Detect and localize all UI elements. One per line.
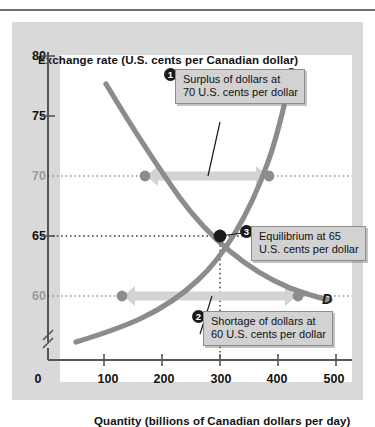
supply-curve	[76, 106, 284, 342]
callout-2-line1: Shortage of dollars at	[211, 315, 326, 328]
demand-curve	[106, 84, 330, 300]
surplus-supply-point	[264, 171, 275, 182]
leader-line-surplus	[208, 122, 220, 176]
callout-1-line2: 70 U.S. cents per dollar	[183, 86, 298, 99]
callout-1-line1: Surplus of dollars at	[183, 73, 298, 86]
shortage-supply-point	[117, 291, 128, 302]
demand-curve-label: D	[322, 291, 332, 307]
shortage-demand-point	[293, 291, 304, 302]
callout-2-line2: 60 U.S. cents per dollar	[211, 328, 326, 341]
x-axis-title: Quantity (billions of Canadian dollars p…	[94, 415, 350, 427]
callout-1-surplus: Surplus of dollars at 70 U.S. cents per …	[175, 69, 305, 104]
callout-3-line1: Equilibrium at 65	[259, 230, 359, 243]
callout-3-equilibrium: Equilibrium at 65 U.S. cents per dollar	[251, 226, 366, 261]
callout-2-shortage: Shortage of dollars at 60 U.S. cents per…	[203, 311, 333, 346]
callout-3-line2: U.S. cents per dollar	[259, 243, 359, 256]
top-divider	[0, 9, 375, 11]
surplus-demand-point	[140, 171, 151, 182]
figure-panel: Exchange rate (U.S. cents per Canadian d…	[12, 22, 363, 400]
